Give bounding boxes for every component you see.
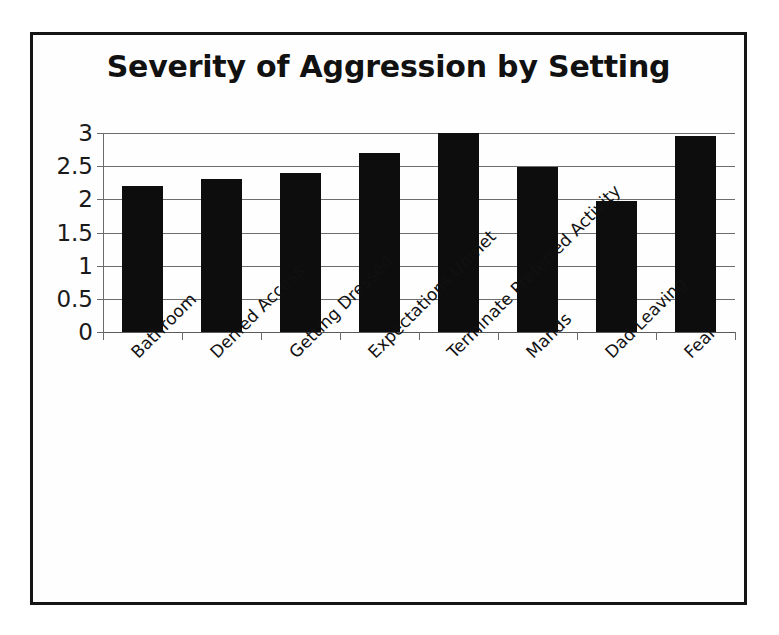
- gridline-2: [103, 199, 735, 200]
- bar-denied-access: [201, 179, 242, 332]
- bar-bathroom: [122, 186, 163, 332]
- chart-title: Severity of Aggression by Setting: [33, 49, 744, 84]
- x-tick-mark-1: [182, 332, 183, 340]
- plot-area: [103, 133, 735, 332]
- x-tick-mark-2: [261, 332, 262, 340]
- gridline-2.5: [103, 166, 735, 167]
- gridline-1.5: [103, 233, 735, 234]
- bar-getting-dressed: [280, 173, 321, 332]
- x-tick-mark-5: [498, 332, 499, 340]
- bar-expectations-unmet: [359, 153, 400, 332]
- x-tick-mark-end: [735, 332, 736, 340]
- y-tick-label-1.5: 1.5: [33, 220, 93, 246]
- y-tick-label-1: 1: [33, 253, 93, 279]
- x-tick-mark-6: [577, 332, 578, 340]
- y-tick-label-0: 0: [33, 319, 93, 345]
- bar-fear: [675, 136, 716, 332]
- gridline-1: [103, 266, 735, 267]
- y-tick-label-2: 2: [33, 186, 93, 212]
- bar-mands: [517, 167, 558, 332]
- x-tick-mark-4: [419, 332, 420, 340]
- chart-frame: Severity of Aggression by Setting 32.521…: [30, 32, 747, 605]
- x-tick-mark-0: [103, 332, 104, 340]
- x-tick-mark-3: [340, 332, 341, 340]
- y-tick-label-3: 3: [33, 120, 93, 146]
- x-tick-mark-7: [656, 332, 657, 340]
- y-axis-tick-labels: 32.521.510.50: [33, 35, 93, 602]
- y-tick-label-0.5: 0.5: [33, 286, 93, 312]
- gridline-3: [103, 133, 735, 134]
- y-tick-label-2.5: 2.5: [33, 153, 93, 179]
- bar-terminate-preferred-activity: [438, 133, 479, 332]
- gridline-0.5: [103, 299, 735, 300]
- bar-dad-leaving: [596, 201, 637, 332]
